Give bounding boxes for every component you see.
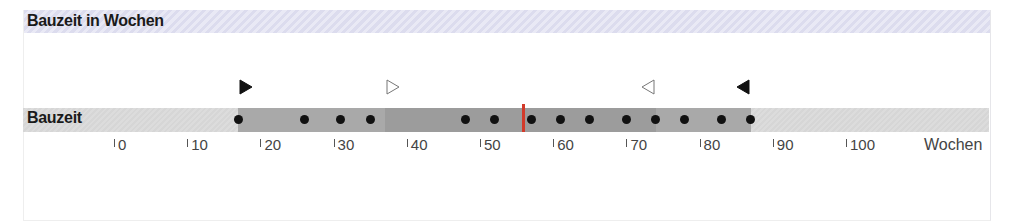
x-tick-label: 100 — [846, 136, 875, 153]
data-point — [717, 115, 726, 124]
q1-marker-icon — [386, 79, 400, 95]
data-point — [300, 115, 309, 124]
data-point — [234, 115, 243, 124]
x-tick-label: 10 — [187, 136, 208, 153]
x-tick-label: 20 — [260, 136, 281, 153]
x-tick-label: 80 — [700, 136, 721, 153]
x-tick-label: 40 — [407, 136, 428, 153]
chart-title: Bauzeit in Wochen — [27, 12, 164, 30]
x-tick-label: 30 — [334, 136, 355, 153]
x-tick-label: 50 — [480, 136, 501, 153]
data-point — [366, 115, 375, 124]
median-marker — [522, 104, 525, 132]
x-tick-label: 70 — [626, 136, 647, 153]
min-marker-icon — [239, 79, 253, 95]
x-axis-unit-label: Wochen — [924, 136, 982, 154]
interquartile-band — [385, 108, 656, 132]
x-tick-label: 90 — [773, 136, 794, 153]
max-marker-icon — [736, 79, 750, 95]
data-point — [556, 115, 565, 124]
row-label: Bauzeit — [27, 109, 82, 127]
data-point — [527, 115, 536, 124]
data-point — [622, 115, 631, 124]
data-point — [461, 115, 470, 124]
x-tick-label: 0 — [114, 136, 126, 153]
chart-header: Bauzeit in Wochen — [24, 10, 990, 33]
x-tick-label: 60 — [553, 136, 574, 153]
q3-marker-icon — [641, 79, 655, 95]
